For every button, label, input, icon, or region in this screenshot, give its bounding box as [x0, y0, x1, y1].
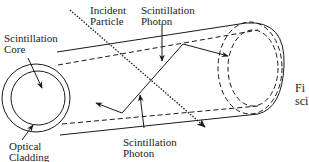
caption-fragment: Fi sci	[295, 82, 308, 108]
photon-arrow-left	[96, 103, 122, 113]
incident-particle-track	[70, 10, 205, 127]
label-incident-particle: Incident Particle	[90, 5, 126, 27]
label-cladding: Optical Cladding	[9, 141, 49, 162]
label-photon-bottom: Scintillation Photon	[123, 137, 177, 159]
label-core: Scintillation Core	[4, 33, 58, 55]
cylinder-bottom-line	[60, 114, 258, 135]
back-inner-dashed-circle	[228, 30, 278, 106]
photon-bottom-leader-arrow	[140, 95, 144, 128]
photon-arrow-right	[183, 44, 228, 56]
label-photon-top: Scintillation Photon	[141, 5, 195, 27]
core-bottom-dashed-line	[62, 106, 258, 124]
photon-path	[122, 44, 183, 113]
